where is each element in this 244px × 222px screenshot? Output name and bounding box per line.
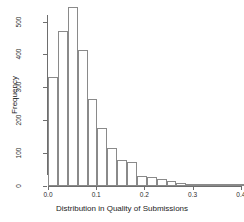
x-tick [48, 186, 49, 190]
histogram-bars [0, 0, 244, 186]
histogram-bar [186, 184, 196, 186]
histogram-bar [196, 184, 206, 186]
histogram-bar [216, 184, 226, 186]
histogram-bar [167, 181, 177, 186]
histogram-bar [107, 148, 117, 186]
y-tick [43, 186, 47, 187]
x-axis-title: Distribution in Quality of Submissions [0, 204, 244, 213]
x-tick-label: 0.0 [33, 191, 63, 198]
histogram-bar [88, 99, 98, 186]
histogram-bar [206, 184, 216, 186]
x-tick [96, 186, 97, 190]
x-tick [193, 186, 194, 190]
x-tick-label: 0.2 [129, 191, 159, 198]
histogram-bar [78, 50, 88, 186]
histogram-bar [147, 177, 157, 186]
x-tick-label: 0.3 [178, 191, 208, 198]
histogram-plot: Frequency 0100200300400500 0.00.10.20.30… [0, 0, 244, 222]
histogram-bar [137, 176, 147, 186]
histogram-bar [68, 7, 78, 186]
x-tick-label: 0.4 [226, 191, 244, 198]
histogram-bar [117, 160, 127, 186]
histogram-bar [157, 179, 167, 186]
histogram-bar [97, 128, 107, 186]
histogram-bar [226, 184, 236, 186]
x-tick-label: 0.1 [81, 191, 111, 198]
x-tick [241, 186, 242, 190]
histogram-bar [127, 162, 137, 186]
x-tick [144, 186, 145, 190]
histogram-bar [176, 183, 186, 186]
histogram-bar [236, 184, 244, 186]
histogram-bar [58, 31, 68, 186]
histogram-bar [48, 77, 58, 186]
